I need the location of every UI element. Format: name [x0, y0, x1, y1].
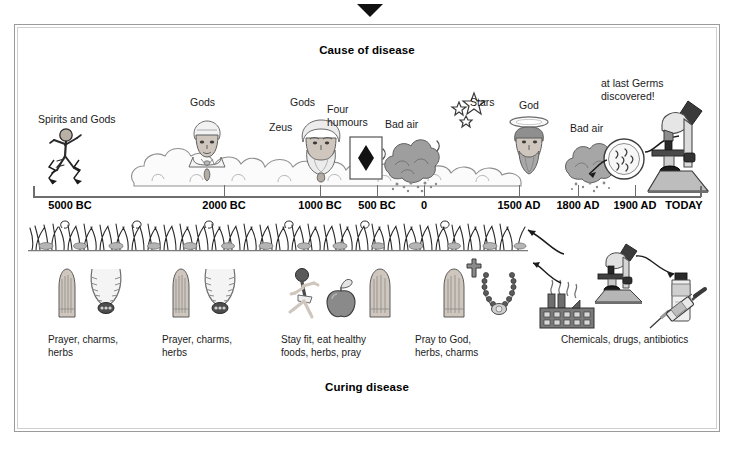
axis-cap-left [33, 186, 35, 197]
caption-cure-egyptian: Prayer, charms, herbs [162, 334, 232, 359]
axis-label-500bc: 500 BC [358, 199, 395, 211]
connector-factory-to-microscope [531, 255, 589, 289]
praying-hands-prehistoric-icon [54, 267, 82, 319]
label-stars: Stars [470, 96, 495, 108]
axis-tick-2000bc [224, 185, 225, 197]
axis-tick-0 [424, 185, 425, 197]
axis-label-0: 0 [421, 199, 427, 211]
page-marker-triangle [357, 4, 383, 17]
axis-tick-500bc [377, 185, 378, 197]
four-humours-card-icon [349, 136, 383, 180]
spirits-and-gods-figure-icon [44, 126, 118, 194]
axis-label-1500ad: 1500 AD [497, 199, 540, 211]
caption-cure-greek: Stay fit, eat healthy foods, herbs, pray [281, 334, 366, 359]
axis-label-1000bc: 1000 BC [298, 199, 341, 211]
charm-necklace-egyptian-icon [200, 267, 240, 319]
god-christian-figure-icon [503, 114, 555, 180]
caption-cure-medieval: Pray to God, herbs, charms [415, 334, 478, 359]
caption-cure-modern: Chemicals, drugs, antibiotics [561, 334, 688, 347]
apple-icon [323, 277, 359, 319]
axis-cap-right [700, 186, 702, 197]
axis-tick-1000bc [320, 185, 321, 197]
axis-label-today: TODAY [665, 199, 702, 211]
axis-tick-1500ad [519, 185, 520, 197]
axis-label-5000bc: 5000 BC [48, 199, 91, 211]
label-gods-greek: Gods [290, 96, 315, 108]
connector-grass-to-microscope [522, 222, 566, 258]
timeline-diagram: Cause of disease Curing disease [0, 0, 734, 449]
axis-tick-1900ad [635, 185, 636, 197]
label-gods-egyptian: Gods [190, 96, 215, 108]
label-bad-air-ancient: Bad air [385, 118, 418, 130]
connector-germ-to-badair [585, 155, 609, 183]
axis-label-2000bc: 2000 BC [202, 199, 245, 211]
axis-label-1800ad: 1800 AD [556, 199, 599, 211]
label-god-christian: God [519, 99, 539, 111]
gods-egyptian-figure-icon [181, 119, 233, 181]
praying-hands-greek-icon [364, 267, 398, 319]
label-four-humours: Four humours [327, 103, 368, 129]
herb-grass-band [28, 218, 528, 252]
axis-label-1900ad: 1900 AD [613, 199, 656, 211]
timeline-axis [33, 196, 701, 198]
label-germs-discovered: at last Germs discovered! [601, 77, 663, 102]
praying-hands-egyptian-icon [168, 267, 196, 319]
runner-figure-icon [288, 267, 326, 319]
label-zeus: Zeus [269, 121, 292, 133]
bad-air-ancient-cloud-icon [381, 133, 443, 195]
caption-cure-prehistoric: Prayer, charms, herbs [48, 334, 118, 359]
label-bad-air-modern: Bad air [570, 122, 603, 134]
axis-tick-1800ad [578, 185, 579, 197]
page-title-curing-disease: Curing disease [325, 381, 409, 393]
microscope-top-icon [640, 97, 716, 193]
page-title-cause-of-disease: Cause of disease [319, 44, 415, 56]
syringe-icon [648, 298, 710, 330]
rosary-icon [478, 272, 520, 320]
label-spirits-and-gods: Spirits and Gods [38, 113, 116, 125]
charm-necklace-prehistoric-icon [86, 267, 126, 319]
